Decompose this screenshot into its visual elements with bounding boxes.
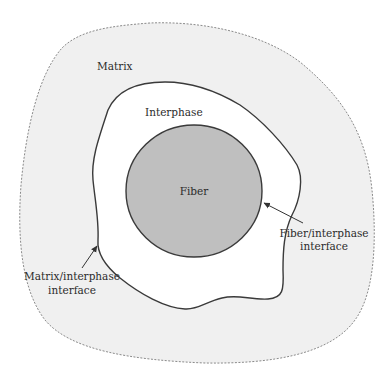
fiber-interphase-label-line2: interface bbox=[300, 240, 348, 252]
fiber-label: Fiber bbox=[180, 185, 210, 197]
matrix-interphase-label-line2: interface bbox=[48, 284, 96, 296]
interphase-label: Interphase bbox=[145, 106, 203, 118]
matrix-interphase-label-line1: Matrix/interphase bbox=[24, 270, 120, 282]
diagram-canvas: Matrix Interphase Fiber Matrix/interphas… bbox=[0, 0, 388, 380]
fiber-interphase-label-line1: Fiber/interphase bbox=[279, 227, 368, 239]
matrix-label: Matrix bbox=[97, 60, 133, 72]
